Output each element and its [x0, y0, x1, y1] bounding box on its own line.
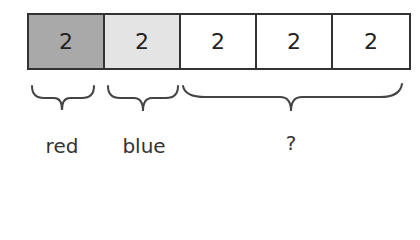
- brace-blue-icon: [108, 86, 178, 111]
- label-blue: blue: [122, 134, 165, 158]
- brace-red-icon: [32, 86, 94, 110]
- label-unknown: ?: [286, 131, 297, 155]
- brace-unknown-icon: [183, 84, 402, 111]
- label-red: red: [46, 134, 79, 158]
